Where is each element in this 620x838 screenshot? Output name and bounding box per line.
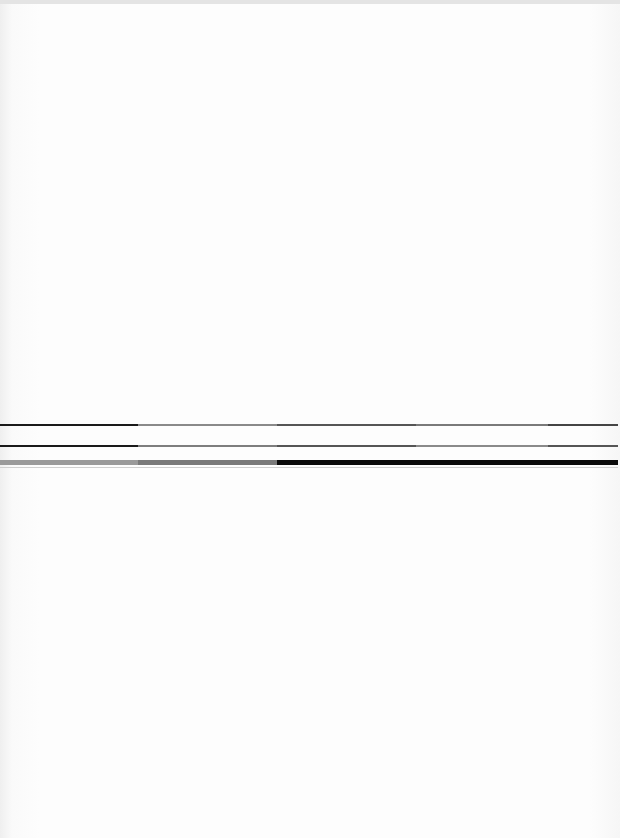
rule-segment [138,445,277,447]
rule-segment [277,445,416,447]
rule-segment [548,445,618,447]
rule-segment [277,424,416,426]
rule-segment [0,460,138,465]
scan-edge-band [0,0,620,4]
rule-segment [0,424,138,426]
rule-segment [277,460,618,465]
rule-segment [416,445,548,447]
rule-segment [0,445,138,447]
rule-3-thick [0,460,618,465]
rule-segment [138,424,277,426]
rule-2 [0,445,618,447]
rule-segment [548,424,618,426]
rule-1 [0,424,618,426]
scanned-page [0,0,620,838]
rule-4-thin [0,467,618,468]
rule-segment [138,460,277,465]
rule-segment [416,424,548,426]
rule-segment [0,467,618,468]
